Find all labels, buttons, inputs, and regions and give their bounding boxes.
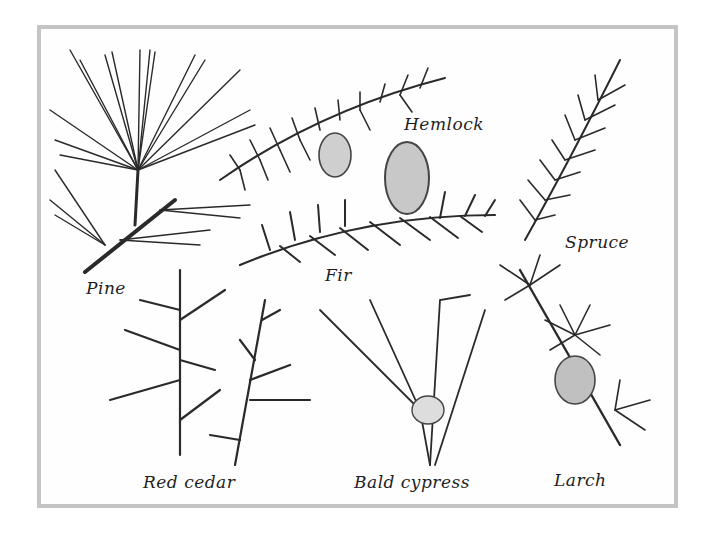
label-bald-cypress: Bald cypress: [354, 472, 470, 492]
label-red-cedar: Red cedar: [143, 472, 235, 492]
larch-branch-drawing: [500, 255, 650, 445]
spruce-branch-drawing: [520, 60, 625, 240]
label-larch: Larch: [554, 470, 607, 490]
red-cedar-branch-drawing: [110, 270, 310, 465]
bald-cypress-branch-drawing: [320, 295, 485, 465]
label-pine: Pine: [86, 278, 126, 298]
label-hemlock: Hemlock: [404, 114, 484, 134]
conifer-illustrations: [0, 0, 708, 537]
label-spruce: Spruce: [565, 232, 629, 252]
fir-branch-drawing: [240, 142, 495, 265]
pine-branch-drawing: [50, 50, 255, 272]
label-fir: Fir: [325, 265, 352, 285]
